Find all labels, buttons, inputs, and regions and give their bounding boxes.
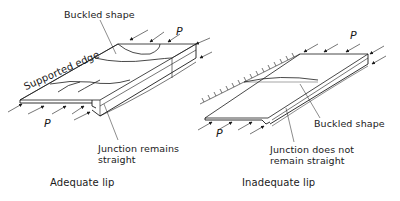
caption-adequate-lip: Adequate lip xyxy=(50,177,114,188)
label-junction-remains-line1: Junction remains xyxy=(98,143,179,154)
diagram-canvas: Buckled shape P Supported edge P Junctio… xyxy=(0,0,400,201)
right-leader-lines xyxy=(286,84,320,142)
label-junction-remains-line2: straight xyxy=(98,154,136,165)
label-load-p-right-top: P xyxy=(350,30,357,41)
label-junction-not-straight-line1: Junction does not xyxy=(270,144,354,155)
label-load-p-left-top: P xyxy=(176,26,183,37)
right-supported-edge-hatch xyxy=(200,53,300,104)
label-load-p-left-bottom: P xyxy=(44,118,51,129)
label-junction-not-straight-line2: remain straight xyxy=(270,155,345,166)
left-leader-lines xyxy=(100,20,118,140)
label-buckled-shape-right: Buckled shape xyxy=(314,118,385,129)
diagram-drawing xyxy=(0,0,400,201)
label-load-p-right-bottom: P xyxy=(216,128,223,139)
label-buckled-shape-left: Buckled shape xyxy=(64,9,135,20)
right-buckle-curve xyxy=(244,77,318,82)
caption-inadequate-lip: Inadequate lip xyxy=(242,177,315,188)
right-plate xyxy=(205,54,368,126)
